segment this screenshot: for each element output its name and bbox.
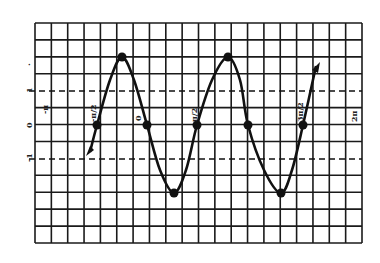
x-label-minus-pi: -π xyxy=(40,105,50,114)
graph-paper-grid xyxy=(35,23,362,243)
y-label-1: 1 xyxy=(24,87,34,93)
y-label-minus-1: -1 xyxy=(24,153,34,162)
x-label-half-pi: π/2 xyxy=(189,108,199,122)
sine-graph: . 1 0 -1 -π -π/2 0 π/2 3π/2 2π xyxy=(0,0,380,263)
x-label-minus-half-pi: -π/2 xyxy=(88,104,98,122)
y-label-0: 0 xyxy=(24,122,34,128)
x-label-0: 0 xyxy=(133,115,143,121)
start-arrow-icon xyxy=(86,146,94,156)
x-label-two-pi: 2π xyxy=(349,110,359,122)
y-label-2: . xyxy=(22,63,32,66)
x-label-three-half-pi: 3π/2 xyxy=(295,102,305,122)
